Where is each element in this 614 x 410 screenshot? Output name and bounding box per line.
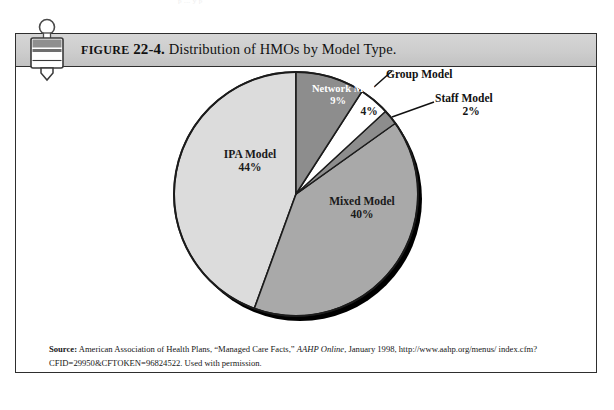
- pie-label-mixed-model-name: Mixed Model: [329, 195, 394, 207]
- pie-label-staff-model: Staff Model 2%: [435, 92, 519, 118]
- pie-label-network-model-name: Network Model: [312, 83, 382, 94]
- pie-label-mixed-model: Mixed Model 40%: [314, 195, 410, 221]
- pie-label-staff-model-name: Staff Model: [435, 92, 493, 104]
- pie-label-group-model-name: Group Model: [386, 68, 490, 81]
- pie-label-mixed-model-value: 40%: [314, 208, 410, 221]
- figure-number: 22-4.: [133, 41, 165, 57]
- source-note: Source: American Association of Health P…: [49, 343, 583, 370]
- page-bleed-text: p ... y p: [178, 0, 203, 5]
- source-text-part1: American Association of Health Plans, “M…: [77, 344, 297, 354]
- pie-chart-area: IPA Model 44% Mixed Model 40% Network Mo…: [16, 67, 596, 339]
- figure-label-prefix: FIGURE: [81, 43, 129, 57]
- figure-title: FIGURE 22-4. Distribution of HMOs by Mod…: [81, 41, 396, 58]
- pie-label-staff-model-value: 2%: [435, 105, 507, 118]
- source-label: Source:: [49, 344, 77, 354]
- source-publication-title: AAHP Online: [297, 344, 344, 354]
- figure-container: FIGURE 22-4. Distribution of HMOs by Mod…: [15, 33, 597, 373]
- pie-label-ipa-model-value: 44%: [207, 161, 293, 174]
- leader-line-staff-model: [392, 102, 434, 117]
- pie-label-ipa-model: IPA Model 44%: [207, 148, 293, 174]
- figure-title-bar: FIGURE 22-4. Distribution of HMOs by Mod…: [16, 34, 596, 67]
- figure-title-text: Distribution of HMOs by Model Type.: [169, 41, 397, 57]
- pie-label-ipa-model-name: IPA Model: [224, 148, 277, 160]
- pie-slices: [174, 72, 418, 316]
- pie-label-network-model: Network Model 9%: [312, 83, 364, 107]
- pie-label-group-model-value: 4%: [357, 105, 381, 118]
